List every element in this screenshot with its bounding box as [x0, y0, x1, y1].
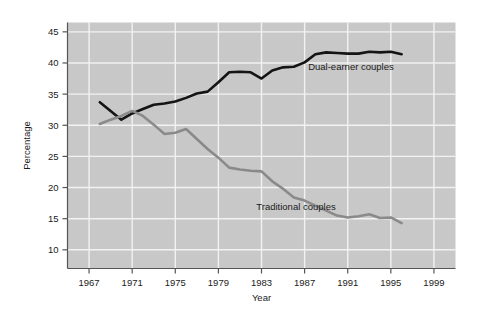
x-axis-tick-label: 1983: [251, 277, 272, 288]
line-chart: 1015202530354045196719711975197919831987…: [0, 0, 478, 319]
x-axis-tick-label: 1975: [165, 277, 186, 288]
x-axis-tick-label: 1999: [423, 277, 444, 288]
x-axis-tick-label: 1971: [122, 277, 143, 288]
y-axis-tick-label: 15: [48, 213, 59, 224]
y-axis-tick-label: 35: [48, 89, 59, 100]
y-axis-tick-label: 30: [48, 120, 59, 131]
series-label: Traditional couples: [256, 201, 336, 212]
y-axis-tick-label: 40: [48, 57, 59, 68]
y-axis-tick-label: 25: [48, 151, 59, 162]
x-axis-tick-label: 1995: [380, 277, 401, 288]
y-axis-tick-label: 20: [48, 182, 59, 193]
chart-figure: 1015202530354045196719711975197919831987…: [0, 0, 478, 319]
x-axis-tick-label: 1987: [294, 277, 315, 288]
x-axis-tick-label: 1967: [78, 277, 99, 288]
x-axis-title: Year: [252, 292, 271, 303]
y-axis-tick-label: 10: [48, 244, 59, 255]
x-axis-tick-label: 1979: [208, 277, 229, 288]
y-axis-tick-label: 45: [48, 26, 59, 37]
y-axis-title: Percentage: [21, 121, 32, 170]
series-label: Dual-earner couples: [308, 61, 394, 72]
x-axis-tick-label: 1991: [337, 277, 358, 288]
